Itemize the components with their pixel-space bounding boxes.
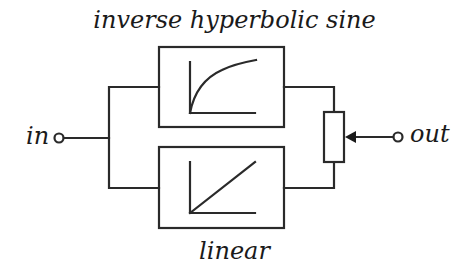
bottom-output-wire — [284, 162, 334, 188]
wiper-arrow-icon — [345, 131, 356, 143]
output-terminal-icon — [394, 133, 403, 142]
split-bus — [109, 87, 159, 188]
top-output-wire — [284, 87, 334, 112]
input-terminal-icon — [55, 134, 64, 143]
asinh-curve-icon — [190, 60, 256, 113]
potentiometer-icon — [324, 112, 344, 162]
linear-block — [159, 147, 284, 228]
asinh-block — [159, 47, 284, 127]
linear-line-icon — [190, 162, 255, 213]
diagram-graphics — [0, 0, 469, 276]
diagram-canvas: inverse hyperbolic sine linear in out — [0, 0, 469, 276]
